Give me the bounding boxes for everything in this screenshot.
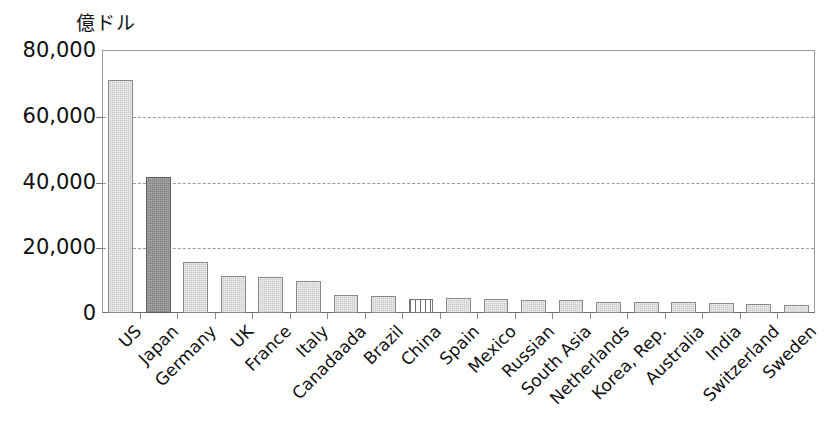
bar [221, 276, 246, 313]
bar [146, 177, 171, 313]
y-axis-tick-label: 0 [0, 301, 96, 325]
bar [746, 304, 771, 313]
y-axis-tick-label: 60,000 [0, 104, 96, 128]
x-axis-category-label: Brazil [360, 321, 408, 369]
bar [334, 295, 359, 313]
bar [784, 305, 809, 313]
bar [709, 303, 734, 313]
bar [446, 298, 471, 313]
bar [183, 262, 208, 313]
bar [596, 302, 621, 313]
bar [634, 302, 659, 313]
bar [108, 80, 133, 313]
bar [484, 299, 509, 313]
bar [296, 281, 321, 313]
y-axis-tick-labels: 020,00040,00060,00080,000 [0, 50, 96, 313]
bar [559, 300, 584, 313]
y-axis-tick-label: 80,000 [0, 38, 96, 62]
bars-container [102, 50, 815, 313]
bar [409, 299, 434, 313]
bar-chart: 億ドル 020,00040,00060,00080,000 USJapanGer… [0, 0, 840, 439]
y-axis-tick-label: 40,000 [0, 170, 96, 194]
bar [371, 296, 396, 313]
bar [671, 302, 696, 313]
x-axis-category-labels: USJapanGermanyUKFranceItalyCanadaadaBraz… [102, 313, 815, 439]
y-axis-unit-label: 億ドル [76, 8, 136, 35]
bar [258, 277, 283, 313]
y-axis-tick-label: 20,000 [0, 235, 96, 259]
bar [521, 300, 546, 313]
x-axis-category-label: China [397, 321, 445, 369]
